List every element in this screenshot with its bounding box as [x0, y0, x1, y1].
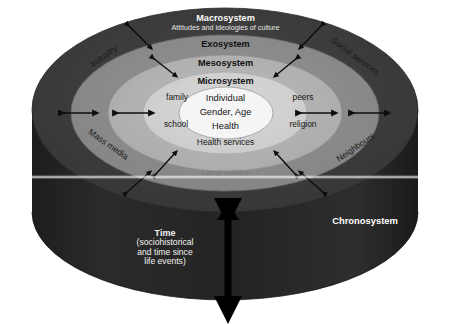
diagram-canvas: Macrosystem Attitudes and ideologies of … — [0, 0, 451, 324]
ecological-systems-svg — [0, 0, 451, 324]
ring-individual-core — [179, 87, 273, 139]
